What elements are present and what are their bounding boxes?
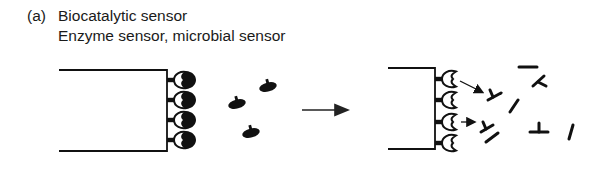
empty-receptor-icon bbox=[435, 135, 456, 152]
product-fragment-icon bbox=[530, 123, 548, 132]
receptor-with-substrate-icon bbox=[167, 92, 196, 109]
empty-receptor-icon bbox=[435, 71, 456, 88]
product-fragment-icon bbox=[486, 133, 498, 142]
biocatalytic-sensor-diagram bbox=[0, 0, 608, 181]
product-fragment-icon bbox=[510, 100, 518, 112]
product-fragment-icon bbox=[533, 76, 546, 86]
free-substrates bbox=[227, 79, 278, 140]
empty-receptor-icon bbox=[435, 114, 456, 131]
right-receptors bbox=[435, 71, 456, 152]
release-arrows bbox=[460, 81, 482, 122]
product-fragment-icon bbox=[569, 125, 573, 139]
product-fragment-icon bbox=[481, 122, 493, 132]
substrate-molecule-icon bbox=[241, 125, 261, 140]
receptor-with-substrate-icon bbox=[167, 112, 196, 129]
substrate-molecule-icon bbox=[258, 79, 278, 94]
substrate-molecule-icon bbox=[227, 96, 247, 111]
right-electrode bbox=[388, 68, 435, 149]
left-electrode bbox=[59, 70, 167, 151]
release-arrow-icon bbox=[460, 81, 482, 92]
empty-receptor-icon bbox=[435, 92, 456, 109]
product-fragment-icon bbox=[488, 90, 501, 100]
receptor-with-substrate-icon bbox=[167, 72, 196, 89]
reaction-products bbox=[481, 67, 573, 142]
left-receptors bbox=[167, 72, 196, 149]
receptor-with-substrate-icon bbox=[167, 132, 196, 149]
